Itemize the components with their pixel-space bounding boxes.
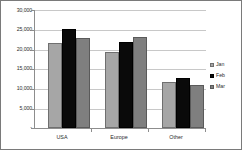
x-axis-label-other: Other [158,134,194,140]
bar-europe-jan [105,52,119,128]
chart-container: 30,000 25,000 20,000 15,000 10,000 5,000… [0,0,242,150]
bar-group-other [162,10,206,128]
y-tick-0 [31,128,34,129]
x-tick-2 [148,129,149,132]
bar-other-mar [190,85,204,128]
legend-label-jan: Jan [216,62,224,67]
y-axis-label-group: 30,000 25,000 20,000 15,000 10,000 5,000… [1,1,32,150]
bar-group-europe [105,10,149,128]
y-tick-10000 [31,89,34,90]
chart-legend: Jan Feb Mar [210,59,240,92]
bar-usa-feb [62,29,76,129]
y-tick-15000 [31,69,34,70]
bar-group-usa [48,10,92,128]
y-axis-line [34,10,35,129]
x-tick-3 [205,129,206,132]
bar-usa-jan [48,43,62,128]
bar-europe-feb [119,42,133,128]
y-axis-tick-label-15000: 15,000 [17,66,32,71]
legend-label-mar: Mar [216,84,225,89]
feb-swatch-icon [210,74,214,78]
jan-swatch-icon [210,63,214,67]
x-tick-1 [91,129,92,132]
y-tick-5000 [31,109,34,110]
legend-item-feb: Feb [210,70,240,81]
bar-usa-mar [76,38,90,128]
mar-swatch-icon [210,85,214,89]
plot-area [34,10,206,129]
x-axis-line [34,128,206,129]
bar-other-jan [162,82,176,128]
bar-other-feb [176,78,190,128]
x-axis-label-usa: USA [44,134,80,140]
y-axis-tick-label-25000: 25,000 [17,27,32,32]
bar-europe-mar [133,37,147,128]
x-axis-label-europe: Europe [101,134,137,140]
legend-item-mar: Mar [210,81,240,92]
y-tick-25000 [31,30,34,31]
y-axis-tick-label-30000: 30,000 [17,8,32,13]
legend-item-jan: Jan [210,59,240,70]
y-axis-tick-label-20000: 20,000 [17,47,32,52]
y-tick-30000 [31,10,34,11]
legend-label-feb: Feb [216,73,225,78]
y-tick-20000 [31,50,34,51]
y-axis-tick-label-10000: 10,000 [17,86,32,91]
